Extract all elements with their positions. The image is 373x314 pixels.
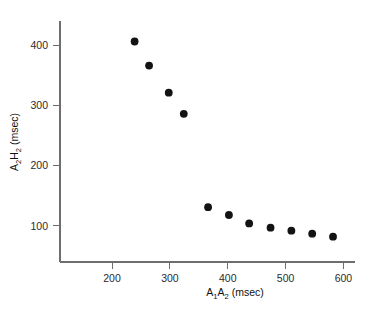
x-axis-tick-labels: 200300400500600 <box>103 272 352 284</box>
data-point <box>204 203 212 211</box>
data-point <box>165 89 173 97</box>
data-point <box>287 227 295 235</box>
x-tick-label-500: 500 <box>277 272 295 284</box>
y-axis: 100200300400 <box>30 21 60 262</box>
x-axis-title-main-2: A <box>218 286 225 298</box>
x-tick-label-400: 400 <box>219 272 237 284</box>
x-axis-title-unit: (msec) <box>229 286 264 298</box>
x-axis-ticks <box>112 262 343 269</box>
data-point <box>180 110 188 118</box>
data-point <box>131 38 139 46</box>
y-tick-label-300: 300 <box>30 99 48 111</box>
chart-figure: 100200300400 200300400500600 A2H2 (msec)… <box>0 0 373 314</box>
svg-text:A1A2 (msec): A1A2 (msec) <box>206 286 264 301</box>
y-axis-tick-labels: 100200300400 <box>30 39 48 232</box>
y-axis-title-unit: (msec) <box>8 113 20 148</box>
data-point <box>225 211 233 219</box>
x-tick-label-200: 200 <box>103 272 121 284</box>
y-tick-label-100: 100 <box>30 220 48 232</box>
y-tick-label-200: 200 <box>30 159 48 171</box>
data-point <box>329 233 337 241</box>
y-tick-label-400: 400 <box>30 39 48 51</box>
x-axis-title-main-1: A <box>206 286 213 298</box>
x-axis-title: A1A2 (msec) <box>206 286 264 301</box>
x-axis: 200300400500600 <box>60 262 355 284</box>
x-tick-label-600: 600 <box>335 272 353 284</box>
data-point <box>308 230 316 238</box>
data-point-series <box>131 38 337 241</box>
x-tick-label-300: 300 <box>161 272 179 284</box>
svg-text:A2H2 (msec): A2H2 (msec) <box>8 113 23 171</box>
data-point <box>145 62 153 70</box>
y-axis-title-main-1: A <box>8 164 20 171</box>
y-axis-title: A2H2 (msec) <box>8 113 23 171</box>
data-point <box>267 224 275 232</box>
y-axis-title-main-2: H <box>8 152 20 160</box>
y-axis-ticks <box>53 45 60 226</box>
data-point <box>245 220 253 228</box>
scatter-plot-svg: 100200300400 200300400500600 A2H2 (msec)… <box>0 0 373 314</box>
